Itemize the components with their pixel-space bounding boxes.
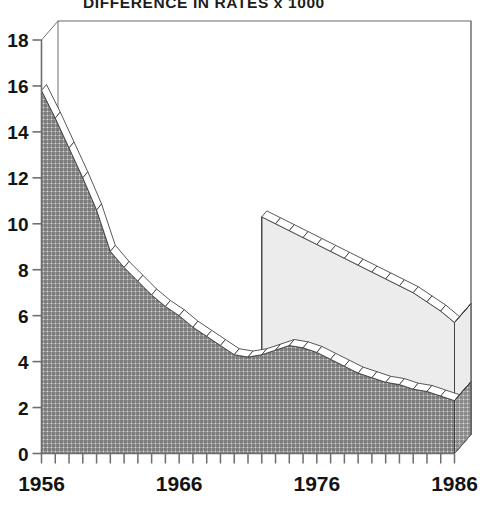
y-tick-label: 0 <box>18 444 29 465</box>
x-axis-labels: 1956196619761986 <box>18 472 478 495</box>
x-tick-label: 1986 <box>431 472 478 495</box>
y-tick-label: 16 <box>7 76 28 97</box>
x-tick-label: 1956 <box>18 472 65 495</box>
y-tick-label: 18 <box>7 30 28 51</box>
y-tick-label: 10 <box>7 214 28 235</box>
y-tick-label: 6 <box>18 306 29 327</box>
y-tick-label: 14 <box>7 122 29 143</box>
chart-figure: DIFFERENCE IN RATES x 1000 0246810121416… <box>0 0 489 518</box>
chart-title: DIFFERENCE IN RATES x 1000 <box>83 0 325 11</box>
y-tick-label: 2 <box>18 398 29 419</box>
y-tick-label: 8 <box>18 260 29 281</box>
x-axis-ticks <box>42 454 455 464</box>
y-tick-label: 12 <box>7 168 28 189</box>
x-tick-label: 1966 <box>156 472 203 495</box>
y-axis-ticks <box>33 40 42 454</box>
y-axis-labels: 024681012141618 <box>7 30 29 465</box>
chart-canvas: DIFFERENCE IN RATES x 1000 0246810121416… <box>0 0 489 518</box>
x-tick-label: 1976 <box>293 472 340 495</box>
y-tick-label: 4 <box>18 352 29 373</box>
